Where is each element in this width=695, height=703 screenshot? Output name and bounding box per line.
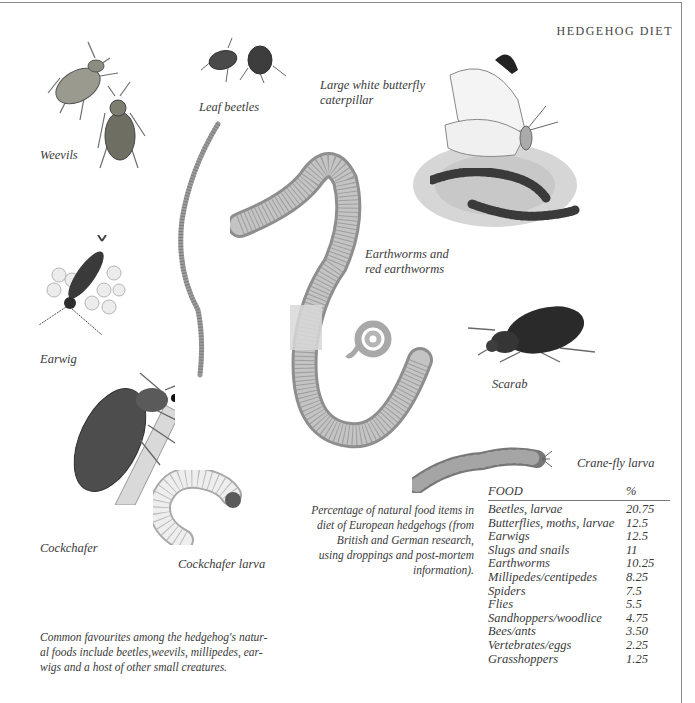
thin-worm-icon [170,120,230,380]
label-crane-fly-larva: Crane-fly larva [577,456,654,471]
intro-caption-line: al foods include beetles,weevils, millip… [40,645,290,660]
earwig-icon [14,235,134,345]
table-row: Bees/ants3.50 [488,625,670,639]
label-cockchafer-larva: Cockchafer larva [178,557,265,572]
table-header: FOOD % [488,484,670,501]
food-cell: Earthworms [488,557,626,571]
label-leaf-beetles: Leaf beetles [199,100,259,115]
food-cell: Spiders [488,585,626,599]
table-row: Earthworms10.25 [488,557,670,571]
food-percentage-table: FOOD % Beetles, larvae20.75 Butterflies,… [488,484,670,666]
food-cell: Slugs and snails [488,544,626,558]
percent-cell: 5.5 [626,598,670,612]
table-row: Beetles, larvae20.75 [488,503,670,517]
table-caption-line: Percentage of natural food items in [296,503,474,518]
table-caption: Percentage of natural food items in diet… [296,503,474,578]
intro-caption: Common favourites among the hedgehog's n… [40,630,290,675]
cockchafer-larva-icon [153,470,243,545]
percent-cell: 1.25 [626,653,670,667]
label-earthworms-line2: red earthworms [365,262,449,277]
percent-cell: 12.5 [626,530,670,544]
table-row: Sandhoppers/woodlice4.75 [488,612,670,626]
food-cell: Vertebrates/eggs [488,639,626,653]
percent-cell: 4.75 [626,612,670,626]
label-cockchafer: Cockchafer [40,541,98,556]
percent-cell: 12.5 [626,517,670,531]
food-cell: Bees/ants [488,625,626,639]
intro-caption-line: Common favourites among the hedgehog's n… [40,630,290,645]
coiled-worm-icon [343,315,403,365]
table-row: Butterflies, moths, larvae12.5 [488,517,670,531]
label-weevils: Weevils [40,148,78,163]
label-earthworms-line1: Earthworms and [365,247,449,262]
earthworm-icon [230,150,440,450]
header-percent: % [626,484,670,499]
food-cell: Earwigs [488,530,626,544]
food-cell: Flies [488,598,626,612]
table-caption-line: using droppings and post-mortem [296,548,474,563]
caterpillar-icon [430,168,580,233]
percent-cell: 10.25 [626,557,670,571]
table-row: Slugs and snails11 [488,544,670,558]
table-caption-line: information). [296,563,474,578]
food-cell: Millipedes/centipedes [488,571,626,585]
label-earthworms: Earthworms and red earthworms [365,247,449,277]
label-scarab: Scarab [492,377,527,392]
page-title: HEDGEHOG DIET [557,24,673,39]
food-cell: Sandhoppers/woodlice [488,612,626,626]
percent-cell: 3.50 [626,625,670,639]
table-caption-line: British and German research, [296,533,474,548]
food-cell: Beetles, larvae [488,503,626,517]
table-row: Earwigs12.5 [488,530,670,544]
scarab-icon [460,300,600,370]
table-caption-line: diet of European hedgehogs (from [296,518,474,533]
table-row: Flies5.5 [488,598,670,612]
percent-cell: 11 [626,544,670,558]
table-row: Millipedes/centipedes8.25 [488,571,670,585]
food-cell: Grasshoppers [488,653,626,667]
table-row: Grasshoppers1.25 [488,653,670,667]
percent-cell: 7.5 [626,585,670,599]
percent-cell: 2.25 [626,639,670,653]
table-row: Spiders7.5 [488,585,670,599]
header-food: FOOD [488,484,626,499]
leaf-beetle-icon [198,38,288,88]
percent-cell: 20.75 [626,503,670,517]
table-row: Vertebrates/eggs2.25 [488,639,670,653]
food-cell: Butterflies, moths, larvae [488,517,626,531]
percent-cell: 8.25 [626,571,670,585]
intro-caption-line: wigs and a host of other small creatures… [40,660,290,675]
